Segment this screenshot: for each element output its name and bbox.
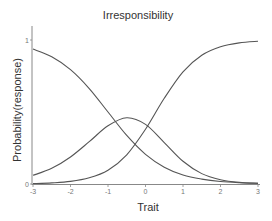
y-tick-label: 1 bbox=[25, 37, 29, 44]
x-tick-label: -2 bbox=[67, 188, 73, 195]
series-line-2 bbox=[33, 118, 258, 184]
curves bbox=[33, 41, 258, 183]
x-tick-label: 0 bbox=[144, 188, 148, 195]
x-tick-label: 2 bbox=[219, 188, 223, 195]
x-tick-label: -1 bbox=[105, 188, 111, 195]
axes: 01-3-2-10123 bbox=[25, 26, 260, 195]
x-tick-label: 3 bbox=[256, 188, 260, 195]
x-tick-label: -3 bbox=[30, 188, 36, 195]
series-line-3 bbox=[33, 41, 258, 183]
plot-area: 01-3-2-10123 bbox=[0, 0, 272, 221]
series-line-1 bbox=[33, 49, 258, 183]
y-tick-label: 0 bbox=[25, 181, 29, 188]
x-tick-label: 1 bbox=[181, 188, 185, 195]
